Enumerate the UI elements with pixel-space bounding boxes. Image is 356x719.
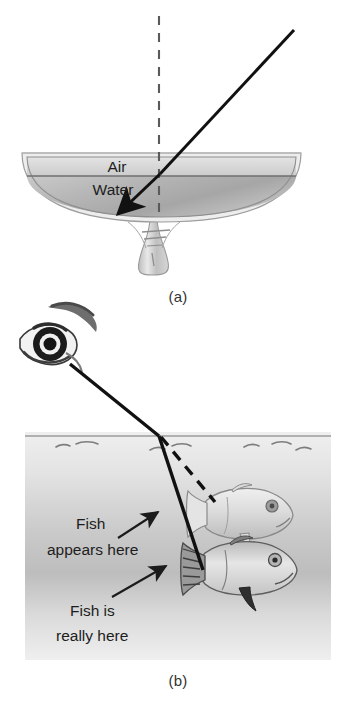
sight-line-air [70, 364, 159, 436]
label-water: Water [93, 181, 134, 198]
refraction-figure: Air Water [0, 0, 356, 719]
bowl-water-region [27, 176, 296, 217]
panel-a: Air Water [22, 16, 301, 275]
label-fish-really-line1: Fish is [70, 602, 115, 619]
panel-b: Fish appears here Fish is really here [20, 303, 331, 660]
caption-panel-b: (b) [0, 672, 356, 689]
label-fish-appears-line1: Fish [76, 515, 105, 532]
bowl-stem [128, 218, 180, 275]
caption-panel-a: (a) [0, 288, 356, 305]
label-fish-really-line2: really here [56, 627, 128, 644]
figure-canvas: Air Water [0, 0, 356, 719]
label-fish-appears-line2: appears here [47, 541, 138, 558]
label-air: Air [108, 158, 127, 175]
